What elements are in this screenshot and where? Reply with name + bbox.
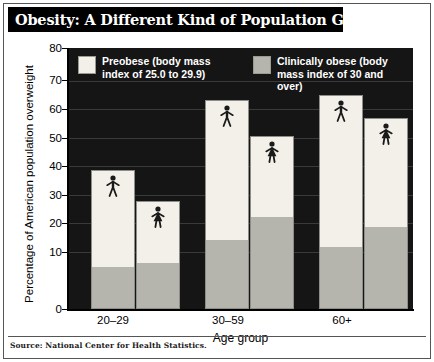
y-tick-mark <box>62 223 67 224</box>
bar-20-29-men <box>91 170 135 309</box>
legend-label-preobese: Preobese (body mass index of 25.0 to 29.… <box>102 55 211 80</box>
plot-area: Preobese (body mass index of 25.0 to 29.… <box>68 48 413 309</box>
x-tick-label-60-plus: 60+ <box>297 314 387 326</box>
segment-preobese-30-59-women <box>251 137 293 217</box>
segment-preobese-20-29-men <box>92 171 134 267</box>
x-tick-label-30-59: 30–59 <box>183 314 273 326</box>
y-axis-label: Percentage of American population overwe… <box>23 59 35 309</box>
legend-item-clinically-obese: Clinically obese (body mass index of 30 … <box>253 55 403 93</box>
y-tick-label: 0 <box>34 303 62 315</box>
y-tick-mark <box>62 48 67 49</box>
segment-preobese-60-plus-women <box>365 119 407 227</box>
y-tick-mark <box>62 309 67 310</box>
segment-clinically-obese-30-59-men <box>206 240 248 308</box>
male-figure-icon <box>333 100 349 126</box>
female-figure-icon <box>378 123 394 149</box>
y-tick-label: 10 <box>34 246 62 258</box>
y-tick-mark <box>62 138 67 139</box>
y-tick-label: 70 <box>34 74 62 86</box>
y-tick-mark <box>62 195 67 196</box>
y-tick-label: 40 <box>34 160 62 172</box>
y-tick-mark <box>62 166 67 167</box>
y-tick-label: 80 <box>34 42 62 54</box>
legend-label-clinically-obese: Clinically obese (body mass index of 30 … <box>277 55 403 93</box>
bar-20-29-women <box>136 201 180 309</box>
segment-preobese-60-plus-men <box>320 96 362 247</box>
segment-clinically-obese-20-29-men <box>92 267 134 308</box>
y-tick-label: 20 <box>34 217 62 229</box>
y-tick-label: 60 <box>34 103 62 115</box>
page-title: Obesity: A Different Kind of Population … <box>15 11 390 28</box>
bar-60-plus-men <box>319 95 363 309</box>
y-tick-mark <box>62 109 67 110</box>
source-note: Source: National Center for Health Stati… <box>10 341 207 350</box>
bar-60-plus-women <box>364 118 408 309</box>
segment-clinically-obese-60-plus-men <box>320 247 362 308</box>
segment-clinically-obese-60-plus-women <box>365 227 407 308</box>
segment-preobese-20-29-women <box>137 202 179 263</box>
y-tick-mark <box>62 80 67 81</box>
female-figure-icon <box>264 141 280 167</box>
legend: Preobese (body mass index of 25.0 to 29.… <box>78 55 403 87</box>
female-figure-icon <box>150 206 166 232</box>
clinically-obese-swatch <box>253 56 271 74</box>
source-divider <box>8 336 426 337</box>
chart-figure: Obesity: A Different Kind of Population … <box>0 0 434 362</box>
bar-30-59-men <box>205 100 249 309</box>
y-tick-mark <box>62 252 67 253</box>
y-tick-label: 30 <box>34 189 62 201</box>
legend-item-preobese: Preobese (body mass index of 25.0 to 29.… <box>78 55 253 80</box>
y-tick-label: 50 <box>34 132 62 144</box>
male-figure-icon <box>219 105 235 131</box>
segment-clinically-obese-20-29-women <box>137 263 179 308</box>
bar-30-59-women <box>250 136 294 309</box>
x-tick-label-20-29: 20–29 <box>68 314 158 326</box>
y-axis-line <box>67 48 69 310</box>
male-figure-icon <box>105 175 121 201</box>
segment-preobese-30-59-men <box>206 101 248 240</box>
x-axis-line <box>67 309 414 311</box>
preobese-swatch <box>78 56 96 74</box>
segment-clinically-obese-30-59-women <box>251 217 293 308</box>
